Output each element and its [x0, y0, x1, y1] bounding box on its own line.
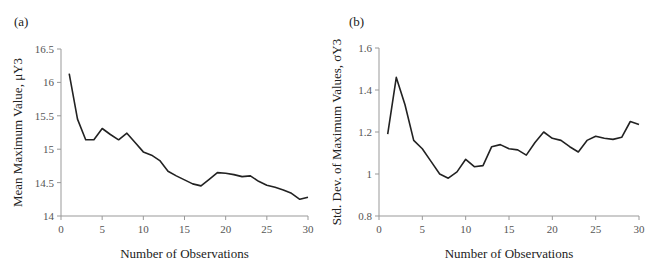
y-tick-label: 14 [43, 210, 55, 222]
y-tick-label: 15.5 [35, 110, 55, 122]
panel-label: (a) [14, 14, 28, 29]
y-tick-label: 1.2 [358, 126, 372, 138]
x-axis-title: Number of Observations [120, 246, 249, 261]
x-axis-title: Number of Observations [445, 246, 574, 261]
x-tick-label: 15 [179, 223, 191, 235]
y-tick-label: 16.5 [35, 43, 55, 55]
y-tick-label: 15 [43, 143, 55, 155]
x-tick-label: 0 [58, 223, 64, 235]
data-line [388, 77, 639, 178]
y-axis-title: Std. Dev. of Maximum Values, σY3 [329, 39, 344, 225]
y-tick-label: 1.6 [358, 42, 372, 54]
x-tick-label: 15 [504, 223, 516, 235]
x-tick-label: 25 [590, 223, 602, 235]
y-tick-label: 1.4 [358, 84, 372, 96]
y-axis-title: Mean Maximum Value, μY3 [10, 58, 25, 207]
x-tick-label: 5 [420, 223, 426, 235]
data-line [69, 74, 308, 200]
x-tick-label: 10 [460, 223, 472, 235]
x-tick-label: 5 [99, 223, 105, 235]
x-tick-label: 10 [138, 223, 150, 235]
panel-label: (b) [349, 14, 364, 29]
x-tick-label: 30 [634, 223, 646, 235]
x-tick-label: 0 [376, 223, 382, 235]
figure: (a)1414.51515.51616.5051015202530Number … [0, 0, 656, 276]
x-tick-label: 25 [261, 223, 273, 235]
x-tick-label: 20 [220, 223, 232, 235]
y-tick-label: 14.5 [35, 177, 55, 189]
y-tick-label: 1 [367, 168, 373, 180]
y-tick-label: 0.8 [358, 210, 372, 222]
x-tick-label: 30 [303, 223, 315, 235]
y-tick-label: 16 [43, 76, 55, 88]
x-tick-label: 20 [547, 223, 559, 235]
